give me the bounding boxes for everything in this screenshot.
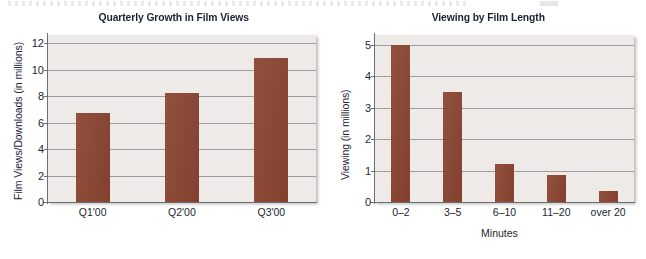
y-tick-mark [371, 202, 375, 203]
y-tick-mark [44, 123, 48, 124]
gridline [375, 108, 634, 109]
x-tick-label: Q3'00 [227, 206, 316, 218]
x-tick-label: 0–2 [375, 206, 427, 218]
x-axis-label: Minutes [323, 227, 646, 239]
bar [547, 175, 566, 202]
chart-title: Quarterly Growth in Film Views [10, 11, 314, 23]
chart-title: Viewing by Film Length [333, 11, 637, 23]
y-tick-label: 5 [323, 39, 371, 51]
x-tick-label: 3–5 [427, 206, 479, 218]
bar [391, 45, 410, 203]
x-axis-line [43, 202, 317, 203]
bar [443, 92, 462, 202]
y-tick-mark [44, 149, 48, 150]
gridline [375, 45, 634, 46]
gridline [375, 139, 634, 140]
y-tick-mark [44, 202, 48, 203]
y-tick-mark [44, 43, 48, 44]
bar [76, 113, 110, 202]
y-tick-mark [371, 108, 375, 109]
y-tick-mark [371, 45, 375, 46]
y-axis-label: Film Views/Downloads (in millions) [12, 42, 24, 200]
chart-quarterly-growth: Quarterly Growth in Film Views 024681012… [0, 0, 323, 259]
bar [495, 164, 514, 202]
y-tick-mark [371, 76, 375, 77]
y-axis-label: Viewing (in millions) [339, 90, 351, 181]
plot-area [48, 35, 316, 202]
chart-viewing-by-film-length: Viewing by Film Length 012345 0–23–56–10… [323, 0, 646, 259]
y-tick-mark [371, 171, 375, 172]
y-tick-mark [44, 96, 48, 97]
bar [254, 58, 288, 203]
y-axis-line [47, 33, 48, 204]
gridline [375, 76, 634, 77]
y-tick-mark [371, 139, 375, 140]
plot-area [375, 35, 634, 202]
bar [599, 191, 618, 202]
y-axis-line [374, 33, 375, 204]
x-tick-label: 6–10 [479, 206, 531, 218]
gridline [48, 43, 316, 44]
y-tick-mark [44, 70, 48, 71]
x-tick-label: Q1'00 [48, 206, 137, 218]
x-axis-line [370, 202, 635, 203]
x-tick-label: 11–20 [530, 206, 582, 218]
x-tick-label: Q2'00 [137, 206, 226, 218]
y-tick-mark [44, 176, 48, 177]
y-tick-label: 4 [323, 70, 371, 82]
x-tick-label: over 20 [582, 206, 634, 218]
y-tick-label: 0 [323, 196, 371, 208]
bar [165, 93, 199, 202]
